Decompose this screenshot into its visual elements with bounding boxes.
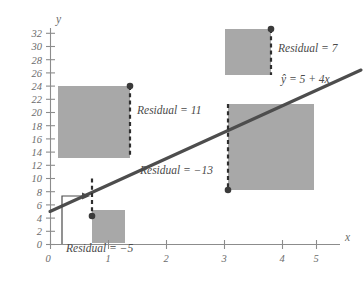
y-tick-8: 8 [37, 187, 43, 198]
annotation-residual-neg13: Residual = −13 [139, 164, 213, 176]
residual-square-x1 [92, 210, 125, 243]
x-tick-3: 3 [220, 253, 226, 264]
x-tick-1: 1 [105, 253, 110, 264]
x-tick-5: 5 [313, 253, 318, 264]
residual-square-x5 [225, 29, 271, 75]
y-tick-12: 12 [32, 160, 43, 171]
y-tick-26: 26 [32, 68, 43, 79]
annotation-residual-neg5: Residual = −5 [65, 242, 134, 254]
residual-plot: 0 2 4 6 8 10 12 14 16 18 20 22 24 26 28 … [0, 0, 364, 284]
annotation-residual-7: Residual = 7 [277, 42, 339, 54]
data-point-x5 [268, 26, 275, 33]
x-tick-0: 0 [45, 253, 51, 264]
y-tick-24: 24 [32, 81, 43, 92]
y-tick-6: 6 [37, 200, 43, 211]
y-tick-14: 14 [32, 147, 43, 158]
y-tick-2: 2 [37, 226, 43, 237]
y-tick-16: 16 [32, 134, 43, 145]
residual-squares [58, 29, 314, 243]
y-tick-28: 28 [32, 55, 43, 66]
y-tick-32: 32 [31, 28, 43, 39]
annotation-residual-11: Residual = 11 [136, 104, 201, 116]
y-tick-22: 22 [32, 94, 43, 105]
y-tick-20: 20 [32, 107, 43, 118]
data-point-x1 [89, 213, 96, 220]
residual-square-x2 [58, 86, 130, 158]
residual-square-x4 [228, 104, 314, 190]
y-tick-4: 4 [37, 213, 43, 224]
y-tick-10: 10 [32, 173, 43, 184]
y-tick-0: 0 [37, 239, 43, 250]
data-point-x2 [127, 83, 134, 90]
x-tick-4: 4 [279, 253, 285, 264]
regression-equation-label: ŷ = 5 + 4x [280, 73, 331, 86]
y-tick-30: 30 [31, 41, 43, 52]
y-axis-label: y [55, 13, 62, 26]
x-axis-label: x [344, 231, 351, 243]
y-axis-tick-labels: 0 2 4 6 8 10 12 14 16 18 20 22 24 26 28 … [31, 28, 43, 250]
x-axis-tick-labels: 0 1 2 3 4 5 [45, 253, 318, 264]
data-point-x4 [225, 187, 232, 194]
y-tick-18: 18 [32, 121, 43, 132]
x-tick-2: 2 [163, 253, 169, 264]
